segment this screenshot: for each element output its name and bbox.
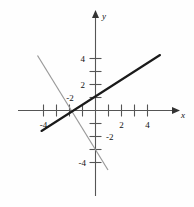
- y-label--2: -2: [106, 132, 114, 142]
- y-axis-arrow-icon: [92, 10, 99, 18]
- line-2-negative-slope: [38, 56, 109, 171]
- y-label-2: 2: [81, 80, 86, 90]
- x-label-2: 2: [119, 120, 124, 130]
- y-axis-label: y: [101, 11, 106, 21]
- data-lines-group: [38, 55, 161, 170]
- y-label-4: 4: [81, 54, 86, 64]
- axes-group: [18, 10, 180, 196]
- x-label-4: 4: [145, 120, 150, 130]
- coordinate-plane-svg: -4 -2 2 4 4 2 -2 -4 x y: [0, 0, 194, 207]
- y-label--4: -4: [79, 158, 87, 168]
- x-label--2: -2: [66, 93, 74, 103]
- graph-figure: -4 -2 2 4 4 2 -2 -4 x y: [0, 0, 194, 207]
- x-axis-label: x: [180, 110, 185, 120]
- line-1-positive-slope: [42, 55, 161, 131]
- x-label--4: -4: [40, 120, 48, 130]
- x-axis-arrow-icon: [172, 107, 180, 114]
